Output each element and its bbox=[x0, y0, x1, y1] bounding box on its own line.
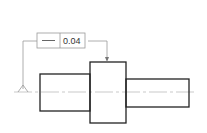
tolerance-leader bbox=[88, 41, 109, 62]
datum-leader bbox=[18, 41, 37, 92]
right-shaft bbox=[126, 79, 189, 107]
part-outline bbox=[40, 62, 189, 123]
drawing-canvas: 0.04 bbox=[0, 0, 207, 133]
feature-control-frame: 0.04 bbox=[37, 33, 85, 48]
left-shaft bbox=[40, 74, 90, 111]
tolerance-value: 0.04 bbox=[63, 36, 81, 46]
leader-arrow-icon bbox=[105, 57, 109, 62]
center-collar bbox=[90, 62, 126, 123]
